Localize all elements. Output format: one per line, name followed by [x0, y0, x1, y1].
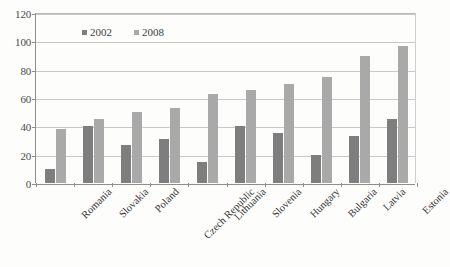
bar-bulgaria-2008[interactable]: [322, 77, 332, 183]
x-tick-end: [417, 183, 418, 187]
bar-groups: [36, 14, 415, 183]
bar-romania-2002[interactable]: [45, 169, 55, 183]
bar-group-poland: [112, 14, 150, 183]
x-axis-labels: RomaniaSlovakiaPolandCzech RepublicLithu…: [35, 186, 416, 266]
legend-swatch-icon: [134, 30, 139, 35]
x-axis-label-latvia: Latvia: [381, 186, 408, 213]
legend-swatch-icon: [82, 30, 87, 35]
y-axis-label-120: 120: [15, 8, 31, 20]
gridline-0: [36, 184, 415, 185]
legend-label: 2008: [142, 26, 164, 38]
legend-item-2002[interactable]: 2002: [82, 26, 112, 38]
bar-slovenia-2008[interactable]: [246, 90, 256, 184]
bar-group-lithuania: [188, 14, 226, 183]
y-axis-label-80: 80: [20, 65, 31, 77]
bar-group-czech-republic: [150, 14, 188, 183]
bar-hungary-2002[interactable]: [273, 133, 283, 183]
bar-group-slovenia: [227, 14, 265, 183]
x-axis-label-poland: Poland: [153, 186, 181, 214]
x-axis-label-slovakia: Slovakia: [117, 186, 151, 220]
bar-estonia-2008[interactable]: [398, 46, 408, 183]
bar-latvia-2002[interactable]: [349, 136, 359, 183]
bar-poland-2002[interactable]: [121, 145, 131, 183]
bar-czech-republic-2002[interactable]: [159, 139, 169, 183]
bar-latvia-2008[interactable]: [360, 56, 370, 184]
y-axis-label-60: 60: [20, 93, 31, 105]
bar-lithuania-2008[interactable]: [208, 94, 218, 183]
plot-area: 120100806040200: [35, 13, 416, 183]
bar-group-romania: [36, 14, 74, 183]
x-axis-label-czech-republic: Czech Republic: [202, 186, 257, 241]
bar-romania-2008[interactable]: [56, 129, 66, 183]
bar-bulgaria-2002[interactable]: [311, 155, 321, 183]
bar-slovakia-2008[interactable]: [94, 119, 104, 183]
bar-czech-republic-2008[interactable]: [170, 108, 180, 183]
x-axis-label-hungary: Hungary: [307, 186, 341, 220]
bar-estonia-2002[interactable]: [387, 119, 397, 183]
bar-group-estonia: [379, 14, 417, 183]
bar-group-hungary: [265, 14, 303, 183]
y-axis-label-20: 20: [20, 150, 31, 162]
bar-poland-2008[interactable]: [132, 112, 142, 183]
bar-hungary-2008[interactable]: [284, 84, 294, 183]
bar-group-slovakia: [74, 14, 112, 183]
bar-group-latvia: [341, 14, 379, 183]
y-axis-label-40: 40: [20, 121, 31, 133]
bar-group-bulgaria: [303, 14, 341, 183]
chart-title: [60, 0, 380, 2]
x-axis-label-romania: Romania: [79, 186, 114, 221]
x-axis-label-estonia: Estonia: [420, 186, 450, 216]
legend-label: 2002: [90, 26, 112, 38]
bar-slovakia-2002[interactable]: [83, 126, 93, 183]
bar-slovenia-2002[interactable]: [235, 126, 245, 183]
x-axis-label-slovenia: Slovenia: [269, 186, 303, 220]
x-axis-label-bulgaria: Bulgaria: [345, 186, 378, 219]
bar-lithuania-2002[interactable]: [197, 162, 207, 183]
y-axis-label-100: 100: [15, 36, 31, 48]
y-axis-label-0: 0: [26, 178, 31, 190]
legend-item-2008[interactable]: 2008: [134, 26, 164, 38]
chart-legend: 20022008: [82, 26, 164, 38]
